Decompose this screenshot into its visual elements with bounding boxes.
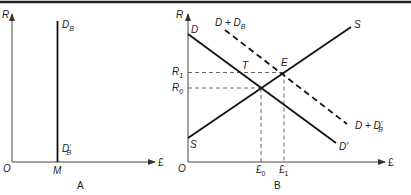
shifted-demand-label: D + DB [215,17,246,30]
panel-a-db-prime-label: D′B [62,143,72,156]
panel-a-x-label: £ [158,157,164,168]
panel-a-db-label: DB [62,19,74,32]
r1-label: R1 [172,66,183,79]
panel-a-caption: A [77,180,84,191]
panel-a: R £ O M DB D′B A [2,9,164,191]
panel-a-y-label: R [2,9,9,20]
economics-diagram: R £ O M DB D′B A R £ O D D′ S S D + DB D… [0,0,411,195]
panel-b-origin: O [178,163,186,174]
shifted-demand-curve [225,30,347,124]
shifted-demand-end-label: D + D′B [355,120,383,133]
panel-b-caption: B [274,180,281,191]
q0-label: £0 [256,164,266,177]
demand-label: D [191,24,198,35]
r0-label: R0 [172,82,183,95]
supply-bottom-label: S [190,139,197,150]
demand-end-label: D′ [339,141,349,152]
panel-b: R £ O D D′ S S D + DB D + D′B T E R1 R0 … [172,9,394,191]
point-t-label: T [242,60,249,71]
panel-b-x-label: £ [388,157,394,168]
q1-label: £1 [279,164,289,177]
panel-b-y-label: R [176,9,183,20]
point-e-label: E [281,57,288,68]
panel-a-origin: O [3,163,11,174]
panel-a-m-label: M [53,165,62,176]
supply-top-label: S [354,19,361,30]
supply-curve [188,27,351,138]
